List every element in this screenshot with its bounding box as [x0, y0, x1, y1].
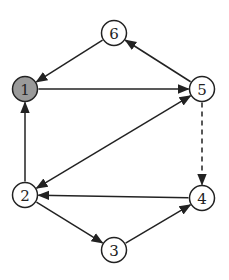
edges — [25, 40, 202, 243]
edge-5-6 — [125, 40, 190, 82]
node-label: 4 — [197, 190, 207, 208]
node-1: 1 — [13, 77, 38, 102]
graph-canvas: 123456 — [0, 0, 229, 280]
edge-4-2 — [38, 195, 188, 198]
node-6: 6 — [102, 21, 127, 46]
graph-diagram: 123456 — [0, 0, 229, 280]
node-3: 3 — [102, 238, 127, 263]
edge-2-3 — [36, 202, 102, 243]
node-4: 4 — [190, 186, 215, 211]
node-label: 3 — [109, 242, 119, 260]
edge-2-5 — [37, 96, 191, 188]
node-label: 6 — [109, 25, 119, 43]
edge-6-1 — [36, 40, 102, 82]
node-2: 2 — [13, 183, 38, 208]
node-label: 2 — [20, 187, 30, 205]
node-5: 5 — [190, 77, 215, 102]
edge-3-4 — [126, 205, 191, 243]
node-label: 1 — [20, 81, 30, 99]
node-label: 5 — [197, 81, 207, 99]
